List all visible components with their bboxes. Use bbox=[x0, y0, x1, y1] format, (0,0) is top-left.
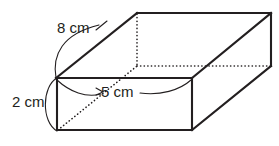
dimension-label-width: 5 cm bbox=[101, 84, 134, 99]
rectangular-prism-diagram bbox=[0, 0, 279, 146]
edge-right-bottom-diagonal bbox=[192, 66, 271, 130]
leader-arc-width-left bbox=[57, 80, 101, 95]
leader-lines-group bbox=[45, 21, 191, 131]
edge-top-right-diagonal bbox=[192, 13, 271, 78]
dimension-label-height: 2 cm bbox=[12, 94, 45, 109]
dimension-label-length: 8 cm bbox=[57, 20, 90, 35]
leader-arc-height bbox=[45, 78, 57, 131]
leader-arc-width-right bbox=[140, 80, 191, 94]
hidden-edges-group bbox=[58, 14, 271, 130]
